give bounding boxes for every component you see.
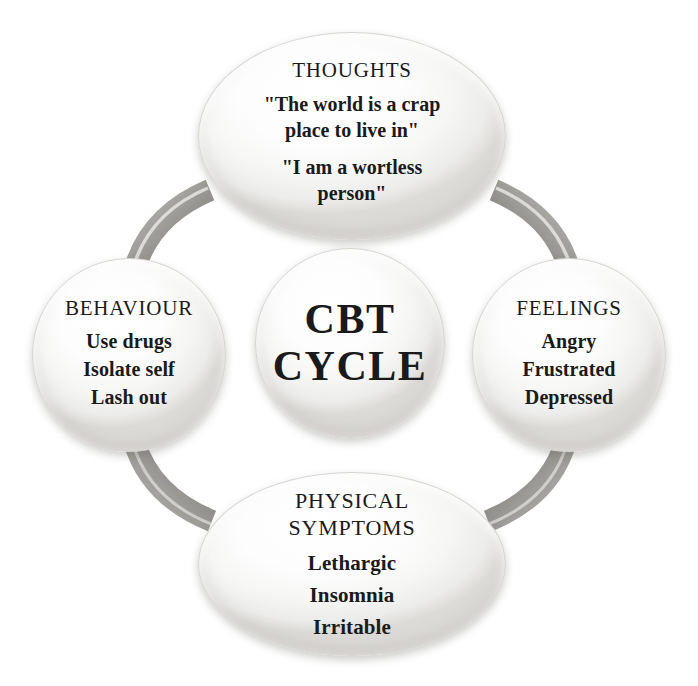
node-feelings-item-3: Depressed — [525, 383, 613, 411]
cbt-cycle-diagram: THOUGHTS "The world is a crap place to l… — [0, 0, 698, 686]
connector-thoughts-to-feelings — [494, 188, 571, 268]
connector-feelings-to-physical — [488, 441, 568, 524]
center-label-line-1: CBT — [305, 296, 396, 343]
connector-behaviour-to-thoughts — [133, 188, 210, 268]
node-feelings-item-1: Angry — [542, 327, 597, 355]
connector-physical-to-behaviour — [132, 441, 212, 524]
node-behaviour-item-1: Use drugs — [86, 327, 172, 355]
node-thoughts-quote-1: "The world is a crap place to live in" — [264, 91, 441, 143]
node-behaviour-item-2: Isolate self — [83, 355, 175, 383]
node-physical-item-3: Irritable — [313, 612, 391, 644]
quote-2-line-1: "I am a wortless — [282, 154, 423, 180]
node-feelings-item-2: Frustrated — [522, 355, 615, 383]
node-behaviour-title: BEHAVIOUR — [65, 296, 193, 321]
node-center-cbt-cycle[interactable]: CBT CYCLE — [255, 248, 445, 438]
node-feelings[interactable]: FEELINGS Angry Frustrated Depressed — [472, 258, 666, 452]
node-thoughts-title: THOUGHTS — [292, 58, 412, 83]
node-feelings-title: FEELINGS — [516, 296, 622, 321]
quote-2-line-2: person" — [282, 180, 423, 206]
node-behaviour-item-3: Lash out — [91, 383, 167, 411]
quote-1-line-2: place to live in" — [264, 117, 441, 143]
quote-1-line-1: "The world is a crap — [264, 91, 441, 117]
node-physical-title-line-2: SYMPTOMS — [288, 515, 415, 542]
node-thoughts-quote-2: "I am a wortless person" — [282, 154, 423, 206]
center-label-line-2: CYCLE — [273, 343, 428, 390]
node-physical-title: PHYSICAL SYMPTOMS — [288, 488, 415, 542]
node-physical-symptoms[interactable]: PHYSICAL SYMPTOMS Lethargic Insomnia Irr… — [198, 472, 506, 656]
node-thoughts[interactable]: THOUGHTS "The world is a crap place to l… — [198, 32, 506, 240]
node-physical-item-2: Insomnia — [310, 580, 395, 612]
node-physical-title-line-1: PHYSICAL — [288, 488, 415, 515]
node-behaviour[interactable]: BEHAVIOUR Use drugs Isolate self Lash ou… — [32, 258, 226, 452]
node-physical-item-1: Lethargic — [308, 548, 396, 580]
